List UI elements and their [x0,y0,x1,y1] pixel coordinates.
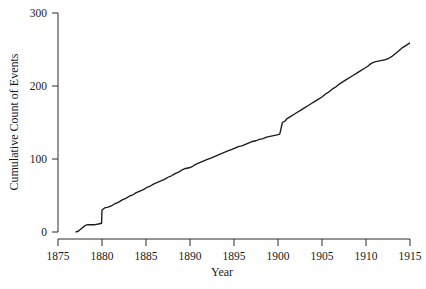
x-tick-label-1915: 1915 [399,250,422,262]
x-axis-group: 1875 1880 1885 1890 1895 1900 1905 1910 … [47,239,422,279]
x-axis-title: Year [211,265,233,279]
x-tick-label-1895: 1895 [223,250,246,262]
chart-canvas: 0 100 200 300 Cumulative Count of Events… [0,0,426,289]
x-tick-label-1875: 1875 [47,250,70,262]
x-tick-label-1890: 1890 [179,250,202,262]
chart-figure: 0 100 200 300 Cumulative Count of Events… [0,0,426,289]
y-tick-label-300: 300 [30,7,48,19]
x-tick-label-1900: 1900 [267,250,290,262]
cumulative-count-line [76,43,410,232]
y-axis-title: Cumulative Count of Events [7,53,21,190]
x-tick-label-1885: 1885 [135,250,158,262]
y-tick-marks [52,13,58,232]
y-axis-group: 0 100 200 300 Cumulative Count of Events [7,7,58,238]
x-tick-label-1880: 1880 [91,250,114,262]
y-tick-label-0: 0 [41,226,47,238]
x-tick-label-1910: 1910 [355,250,378,262]
y-tick-label-100: 100 [30,153,48,165]
y-tick-label-200: 200 [30,80,48,92]
x-tick-label-1905: 1905 [311,250,334,262]
x-tick-marks [58,239,410,246]
